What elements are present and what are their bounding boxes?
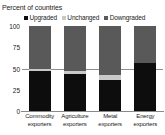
- category-line-2: exporters: [58, 121, 92, 129]
- category-line-1: Metal: [93, 113, 127, 121]
- x-axis-category-label: Commodityexporters: [23, 113, 57, 134]
- y-tick-label: 50: [0, 65, 20, 72]
- category-line-2: exporters: [128, 121, 162, 129]
- bar-segment-upgraded[interactable]: [64, 74, 86, 111]
- bar-series-container: [22, 26, 163, 111]
- bar-segment-upgraded[interactable]: [29, 71, 51, 111]
- plot-area: [22, 26, 163, 111]
- bar-group[interactable]: [29, 26, 51, 111]
- bar-group[interactable]: [134, 26, 156, 111]
- bar-group[interactable]: [64, 26, 86, 111]
- bar-segment-downgraded[interactable]: [99, 26, 121, 75]
- legend-item-unchanged[interactable]: Unchanged: [62, 14, 99, 22]
- y-tick-label: 25: [0, 86, 20, 93]
- bar-segment-downgraded[interactable]: [64, 26, 86, 71]
- square-marker-icon: [24, 16, 28, 20]
- square-marker-icon: [104, 16, 108, 20]
- category-line-2: exporters: [93, 121, 127, 129]
- legend-label: Unchanged: [67, 14, 99, 22]
- legend-item-upgraded[interactable]: Upgraded: [24, 14, 57, 22]
- x-axis-category-labels: CommodityexportersAgricultureexportersMe…: [22, 113, 163, 134]
- legend-label: Upgraded: [30, 14, 57, 22]
- square-marker-icon: [62, 16, 66, 20]
- x-axis-category-label: Energyexporters: [128, 113, 162, 134]
- y-axis-title: Percent of countries: [2, 4, 62, 12]
- category-line-1: Energy: [128, 113, 162, 121]
- chart-legend: UpgradedUnchangedDowngraded: [24, 14, 145, 22]
- y-tick-label: 100: [0, 23, 20, 30]
- x-axis-category-label: Agricultureexporters: [58, 113, 92, 134]
- bar-segment-downgraded[interactable]: [134, 26, 156, 63]
- bar-segment-upgraded[interactable]: [134, 63, 156, 111]
- y-tick-label: 75: [0, 44, 20, 51]
- y-axis: 1007550250: [0, 26, 20, 111]
- legend-label: Downgraded: [110, 14, 145, 22]
- stacked-bar-chart: Percent of countries UpgradedUnchangedDo…: [0, 0, 165, 135]
- bar-group[interactable]: [99, 26, 121, 111]
- bar-segment-upgraded[interactable]: [99, 80, 121, 111]
- bar-segment-downgraded[interactable]: [29, 26, 51, 69]
- y-tick-label: 0: [0, 108, 20, 115]
- legend-item-downgraded[interactable]: Downgraded: [104, 14, 145, 22]
- x-axis-baseline: [21, 111, 164, 112]
- category-line-1: Commodity: [23, 113, 57, 121]
- category-line-1: Agriculture: [58, 113, 92, 121]
- x-axis-category-label: Metalexporters: [93, 113, 127, 134]
- category-line-2: exporters: [23, 121, 57, 129]
